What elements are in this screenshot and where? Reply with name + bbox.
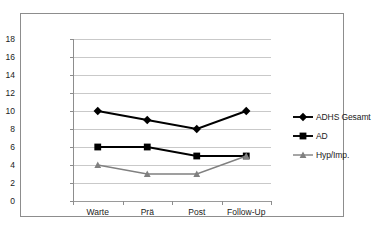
x-axis-labels: WartePräPostFollow-Up <box>73 207 271 221</box>
chart-legend: ADHS GesamtADHyp/Imp. <box>293 107 376 164</box>
y-axis-tick-label: 18 <box>6 34 21 44</box>
data-point-marker <box>193 153 200 160</box>
legend-marker-triangle-icon <box>293 149 313 161</box>
legend-item[interactable]: Hyp/Imp. <box>293 145 376 164</box>
chart-series <box>73 39 271 201</box>
x-axis-tick-label: Follow-Up <box>227 207 265 217</box>
data-point-marker <box>94 107 102 115</box>
data-point-marker <box>193 125 201 133</box>
legend-item-label: AD <box>316 131 328 141</box>
x-axis-tick-mark <box>73 201 74 205</box>
series-group <box>94 107 251 133</box>
data-point-marker <box>299 112 307 120</box>
data-point-marker <box>143 116 151 124</box>
series-group <box>94 144 249 160</box>
x-axis-tick-mark <box>172 201 173 205</box>
y-axis-tick-label: 2 <box>10 178 21 188</box>
y-axis-tick-label: 14 <box>6 70 21 80</box>
data-point-marker <box>144 144 151 151</box>
y-axis-tick-label: 4 <box>10 160 21 170</box>
series-line <box>98 147 247 156</box>
legend-marker-square-icon <box>293 130 313 142</box>
legend-item[interactable]: AD <box>293 126 376 145</box>
legend-item-label: ADHS Gesamt <box>316 112 371 122</box>
y-axis-tick-label: 0 <box>10 196 21 206</box>
data-point-marker <box>300 132 307 139</box>
series-line <box>98 156 247 174</box>
x-axis-tick-label: Post <box>188 207 205 217</box>
x-axis-tick-mark <box>222 201 223 205</box>
x-axis-tick-label: Prä <box>141 207 154 217</box>
legend-item-label: Hyp/Imp. <box>316 150 349 160</box>
legend-marker-diamond-icon <box>293 111 313 123</box>
x-axis-ticks <box>73 201 271 205</box>
x-axis-tick-mark <box>123 201 124 205</box>
series-line <box>98 111 247 129</box>
chart-frame: 024681012141618 WartePräPostFollow-Up AD… <box>20 13 344 217</box>
x-axis-tick-label: Warte <box>87 207 109 217</box>
data-point-marker <box>242 107 250 115</box>
x-axis-tick-mark <box>271 201 272 205</box>
y-axis-tick-label: 6 <box>10 142 21 152</box>
y-axis-tick-label: 10 <box>6 106 21 116</box>
data-point-marker <box>94 144 101 151</box>
legend-item[interactable]: ADHS Gesamt <box>293 107 376 126</box>
y-axis-tick-label: 16 <box>6 52 21 62</box>
y-axis-tick-label: 12 <box>6 88 21 98</box>
y-axis-tick-label: 8 <box>10 124 21 134</box>
